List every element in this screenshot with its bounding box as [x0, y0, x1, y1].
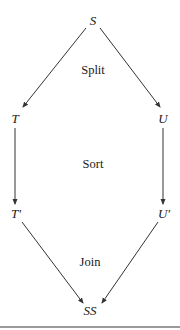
node-t: T: [11, 112, 18, 125]
edge-s-t: [23, 28, 86, 107]
node-u: U: [158, 112, 167, 125]
node-t-prime: T′: [11, 207, 21, 220]
edge-s-u: [100, 28, 160, 107]
bottom-divider: [0, 326, 180, 328]
stage-split-label: Split: [81, 64, 105, 77]
edge-tprime-ss: [22, 222, 83, 303]
node-u-prime: U′: [158, 207, 170, 220]
edge-uprime-ss: [102, 222, 158, 303]
stage-sort-label: Sort: [83, 158, 104, 171]
stage-join-label: Join: [80, 256, 101, 269]
node-s: S: [90, 14, 97, 27]
node-ss: SS: [84, 304, 97, 317]
